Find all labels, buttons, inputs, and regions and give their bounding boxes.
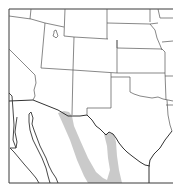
- great-salt-lake: [53, 30, 58, 38]
- map-canvas: [0, 0, 173, 195]
- range-shading: [58, 111, 122, 183]
- coastline: [9, 93, 58, 183]
- range-map: [0, 0, 173, 195]
- map-frame: [9, 9, 173, 183]
- state-boundaries: [9, 9, 173, 131]
